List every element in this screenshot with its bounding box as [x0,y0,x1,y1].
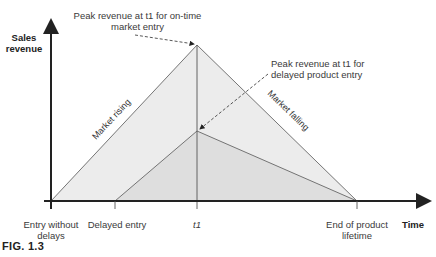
tick-label-end-of-lifetime: End of product lifetime [322,219,392,241]
x-axis-label: Time [402,219,424,230]
ontime-peak-leader [135,35,194,44]
figure-caption: FIG. 1.3 [2,240,44,252]
delayed-peak-annotation: Peak revenue at t1 for delayed product e… [271,58,364,80]
tick-label-entry-without-delays: Entry without delays [14,219,88,241]
y-axis-label: Sales revenue [2,32,46,54]
tick-label-delayed-entry: Delayed entry [82,219,152,230]
tick-label-t1: t1 [187,219,207,230]
revenue-timing-diagram: Market rising Market falling Sales reven… [0,0,436,257]
ontime-peak-annotation: Peak revenue at t1 for on-time market en… [70,10,205,32]
